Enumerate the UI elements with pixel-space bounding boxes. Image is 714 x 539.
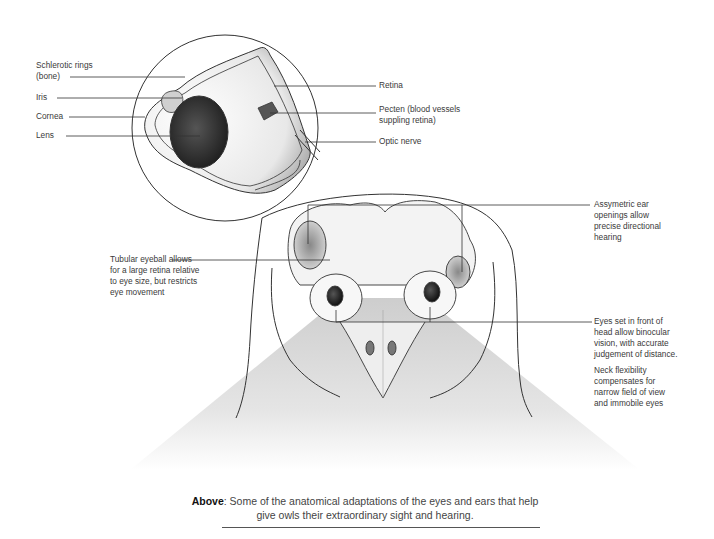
label-line: vision, with accurate: [594, 338, 677, 349]
label-line: Assymetric ear: [594, 199, 661, 210]
label-line: compensates for: [594, 376, 665, 387]
label-optic-nerve: Optic nerve: [379, 136, 421, 147]
label-line: (bone): [36, 71, 93, 82]
label-pecten: Pecten (blood vessels suppling retina): [379, 104, 460, 126]
label-cornea: Cornea: [36, 111, 63, 122]
label-iris: Iris: [36, 92, 47, 103]
label-line: to eye size, but restricts: [110, 276, 199, 287]
left-ear-opening: [294, 221, 326, 269]
label-line: Schlerotic rings: [36, 60, 93, 71]
label-line: Eyes set in front of: [594, 316, 677, 327]
caption-text: : Some of the anatomical adaptations of …: [224, 495, 539, 521]
label-line: judgement of distance.: [594, 349, 677, 360]
label-line: suppling retina): [379, 115, 460, 126]
label-line: hearing: [594, 232, 661, 243]
caption-divider: [222, 527, 540, 528]
left-pupil: [327, 286, 343, 306]
eye-cross-section: [132, 35, 320, 221]
label-line: eye movement: [110, 287, 199, 298]
label-neck-flexibility: Neck flexibility compensates for narrow …: [594, 365, 665, 409]
right-pupil: [424, 282, 440, 302]
owl-anatomy-illustration: [0, 0, 714, 539]
label-schlerotic-rings: Schlerotic rings (bone): [36, 60, 93, 82]
label-line: for a large retina relative: [110, 265, 199, 276]
label-line: Neck flexibility: [594, 365, 665, 376]
label-lens: Lens: [36, 130, 54, 141]
label-line: head allow binocular: [594, 327, 677, 338]
label-line: precise directional: [594, 221, 661, 232]
caption-lead: Above: [192, 495, 224, 507]
label-ear-openings: Assymetric ear openings allow precise di…: [594, 199, 661, 243]
label-line: and immobile eyes: [594, 398, 665, 409]
label-tubular-eyeball: Tubular eyeball allows for a large retin…: [110, 254, 199, 298]
label-line: openings allow: [594, 210, 661, 221]
figure-caption: Above: Some of the anatomical adaptation…: [190, 494, 540, 522]
label-retina: Retina: [379, 80, 403, 91]
label-line: Tubular eyeball allows: [110, 254, 199, 265]
label-line: Pecten (blood vessels: [379, 104, 460, 115]
label-binocular-vision: Eyes set in front of head allow binocula…: [594, 316, 677, 360]
lens-shape: [170, 96, 228, 168]
label-line: narrow field of view: [594, 387, 665, 398]
